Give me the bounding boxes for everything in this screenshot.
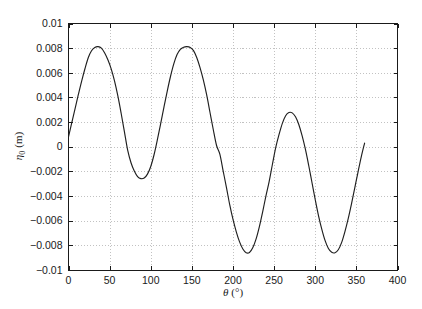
y-tick-label: 0.01 — [42, 17, 63, 29]
x-tick-label: 200 — [224, 274, 242, 286]
x-axis-label-units: (°) — [231, 286, 243, 299]
line-chart: 050100150200250300350400 −0.01−0.008−0.0… — [0, 0, 422, 309]
x-tick-label: 250 — [265, 274, 283, 286]
y-tick-label: −0.008 — [30, 239, 63, 251]
y-tick-label: 0.008 — [36, 42, 62, 54]
x-tick-label: 50 — [104, 274, 116, 286]
y-axis-label-subscript: 0 — [18, 151, 27, 155]
x-tick-label: 400 — [389, 274, 407, 286]
x-tick-label: 350 — [348, 274, 366, 286]
y-tick-label: 0 — [57, 140, 63, 152]
y-tick-label: 0.006 — [36, 67, 62, 79]
y-tick-label: −0.01 — [36, 264, 63, 276]
chart-background — [0, 0, 422, 309]
x-tick-label: 100 — [142, 274, 160, 286]
y-tick-label: −0.002 — [30, 165, 63, 177]
x-tick-label: 150 — [183, 274, 201, 286]
x-axis-label: θ(°) — [223, 286, 243, 299]
y-tick-label: −0.006 — [30, 214, 63, 226]
y-axis-label-units: (m) — [12, 131, 25, 147]
figure-container: 050100150200250300350400 −0.01−0.008−0.0… — [0, 0, 422, 309]
x-tick-label: 0 — [66, 274, 72, 286]
y-tick-label: −0.004 — [30, 190, 63, 202]
x-tick-label: 300 — [306, 274, 324, 286]
y-tick-label: 0.004 — [36, 91, 62, 103]
x-axis-label-symbol: θ — [223, 286, 229, 298]
y-tick-label: 0.002 — [36, 116, 62, 128]
